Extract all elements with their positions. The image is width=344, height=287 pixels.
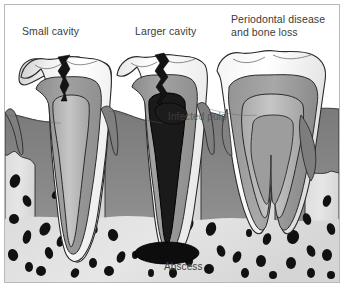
label-larger-cavity: Larger cavity [135,25,196,38]
label-abscess: Abscess [164,261,203,274]
label-infected-pulp: Infected pulp [168,111,227,124]
label-periodontal-disease: Periodontal disease and bone loss [231,13,325,38]
figure-frame: Small cavity Larger cavity Periodontal d… [4,4,340,283]
label-small-cavity: Small cavity [22,25,79,38]
illustration-root: Small cavity Larger cavity Periodontal d… [0,0,344,287]
dental-cross-section-diagram [5,5,339,282]
